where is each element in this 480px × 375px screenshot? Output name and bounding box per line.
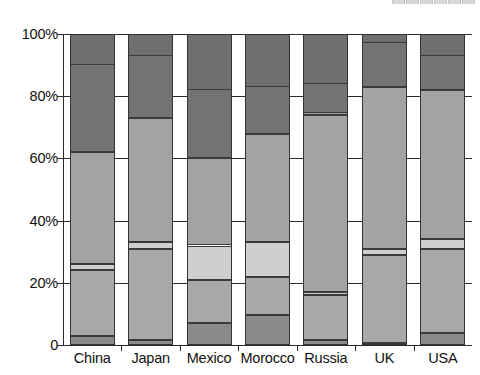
x-tick-mark [238, 346, 239, 351]
y-tick-mark [57, 221, 63, 222]
legend-remnant [392, 0, 478, 4]
bar-mexico [187, 34, 232, 345]
bar-segment [362, 87, 407, 249]
bar-segment [128, 242, 173, 248]
bar-segment [70, 336, 115, 345]
y-tick-mark [57, 34, 63, 35]
y-tick-label: 40% [2, 214, 58, 229]
y-tick-label: 20% [2, 276, 58, 291]
bar-segment [303, 115, 348, 292]
bar-segment [128, 118, 173, 242]
bar-segment [70, 264, 115, 270]
bar-segment [187, 280, 232, 324]
bar-china [70, 34, 115, 345]
bar-japan [128, 34, 173, 345]
legend-swatch [448, 0, 461, 4]
bar-segment [245, 134, 290, 243]
bar-segment-top-cap [245, 34, 290, 87]
bar-segment [187, 246, 232, 280]
plot-area [63, 34, 472, 345]
bar-segment [245, 277, 290, 316]
y-tick-mark [57, 96, 63, 97]
bar-segment [362, 255, 407, 344]
bar-segment [128, 249, 173, 341]
y-tick-label: 60% [2, 151, 58, 166]
bar-segment [420, 333, 465, 345]
bar-segment-top-cap [420, 34, 465, 56]
y-tick-label: 0 [2, 338, 58, 353]
x-tick-label-china: China [63, 351, 121, 366]
y-axis-labels: 100%80%60%40%20%0 [0, 0, 58, 375]
legend-swatch [406, 0, 419, 4]
y-tick-label: 100% [2, 27, 58, 42]
stacked-bar-chart: 100%80%60%40%20%0 ChinaJapanMexicoMorocc… [0, 0, 480, 375]
x-tick-mark [121, 346, 122, 351]
x-tick-mark [355, 346, 356, 351]
legend-swatch [462, 0, 475, 4]
bar-segment [303, 340, 348, 345]
x-tick-mark [180, 346, 181, 351]
bar-segment-top-cap [303, 34, 348, 84]
bar-segment-extra [303, 112, 348, 115]
x-tick-mark [414, 346, 415, 351]
bar-segment-top-cap [128, 34, 173, 56]
bar-segment [303, 292, 348, 295]
bar-segment [420, 239, 465, 248]
bar-segment [187, 323, 232, 345]
bar-segment-top-cap [187, 34, 232, 90]
bar-segment-top-cap [362, 34, 407, 43]
y-tick-mark [57, 158, 63, 159]
bar-russia [303, 34, 348, 345]
bar-segment [420, 90, 465, 239]
bar-segment [245, 315, 290, 345]
legend-swatch [434, 0, 447, 4]
bar-morocco [245, 34, 290, 345]
bar-segment [70, 152, 115, 264]
x-tick-label-uk: UK [355, 351, 413, 366]
bar-segment [245, 242, 290, 276]
x-tick-mark [297, 346, 298, 351]
bar-segment [187, 158, 232, 245]
x-tick-label-mexico: Mexico [180, 351, 238, 366]
x-tick-label-morocco: Morocco [238, 351, 296, 366]
bar-segment [420, 249, 465, 333]
bar-uk [362, 34, 407, 345]
x-tick-label-japan: Japan [121, 351, 179, 366]
bar-segment [362, 249, 407, 255]
legend-swatch [392, 0, 405, 4]
x-tick-label-usa: USA [414, 351, 472, 366]
bar-segment [128, 340, 173, 345]
x-tick-label-russia: Russia [297, 351, 355, 366]
y-tick-label: 80% [2, 89, 58, 104]
bar-usa [420, 34, 465, 345]
gridline-baseline [63, 345, 472, 346]
y-tick-mark [57, 283, 63, 284]
bar-segment-top-cap [70, 34, 115, 65]
y-tick-mark [57, 345, 63, 346]
bar-segment [70, 270, 115, 335]
bar-segment [303, 295, 348, 340]
legend-swatch [420, 0, 433, 4]
